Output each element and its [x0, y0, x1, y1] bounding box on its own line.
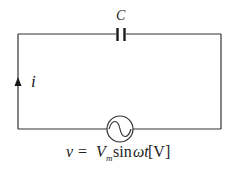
- source-equation: v = V m sin ωt [V]: [66, 143, 170, 163]
- eq-sin: sin: [113, 143, 132, 160]
- ac-source-icon: [107, 116, 133, 142]
- capacitor-label: C: [116, 8, 126, 23]
- current-label: i: [31, 72, 36, 91]
- circuit-wires: [18, 34, 221, 129]
- eq-omega-t: ωt: [133, 143, 149, 160]
- current-arrow-icon: [15, 77, 22, 86]
- circuit-diagram: C i v = V m sin ωt [V]: [0, 0, 233, 169]
- eq-v: v: [66, 143, 74, 160]
- eq-equals: =: [78, 143, 87, 160]
- eq-subscript-m: m: [106, 153, 113, 163]
- capacitor-icon: [118, 28, 125, 41]
- eq-unit: [V]: [148, 143, 170, 160]
